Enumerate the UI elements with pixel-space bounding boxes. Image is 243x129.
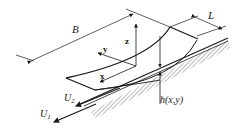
dimension-L [170, 16, 226, 36]
bearing-diagram: B L z y x h(x,y) U2 U1 [0, 0, 243, 129]
label-h: h(x,y) [160, 94, 184, 106]
label-U1: U1 [40, 108, 51, 121]
velocity-U1-arrow [54, 104, 96, 122]
dimension-B [16, 9, 170, 61]
label-z: z [125, 36, 129, 46]
label-y: y [103, 44, 108, 54]
label-x: x [100, 71, 105, 81]
label-U2: U2 [64, 92, 75, 105]
label-B: B [72, 23, 79, 35]
label-L: L [207, 9, 214, 21]
